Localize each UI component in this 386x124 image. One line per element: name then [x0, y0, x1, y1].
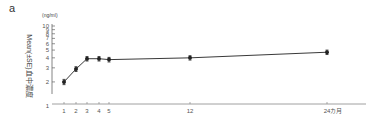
data-series [62, 50, 329, 85]
y-tick-label: 3 [46, 65, 50, 71]
y-tick-label: 2 [46, 79, 50, 85]
data-point [107, 58, 111, 62]
x-tick-label: 5 [107, 108, 111, 114]
y-tick-label: 6 [46, 41, 50, 47]
data-point [325, 50, 329, 54]
y-tick-label: 10 [42, 23, 49, 29]
x-tick-label: 2 [74, 108, 78, 114]
data-point [62, 80, 66, 84]
line-chart: 12345678910123451224カ月 [0, 0, 386, 124]
data-point [85, 57, 89, 61]
x-tick-label: 1 [62, 108, 66, 114]
series-line [64, 52, 327, 82]
data-point [188, 56, 192, 60]
x-tick-label: 3 [85, 108, 89, 114]
x-tick-label: 4 [97, 108, 101, 114]
y-tick-label: 1 [46, 103, 50, 109]
x-tick-label: 12 [187, 108, 194, 114]
axes: 12345678910123451224カ月 [42, 23, 366, 115]
data-point [97, 57, 101, 61]
y-tick-label: 4 [46, 55, 50, 61]
y-tick-label: 5 [46, 47, 50, 53]
data-point [74, 67, 78, 71]
x-tick-label: 24カ月 [324, 108, 343, 115]
